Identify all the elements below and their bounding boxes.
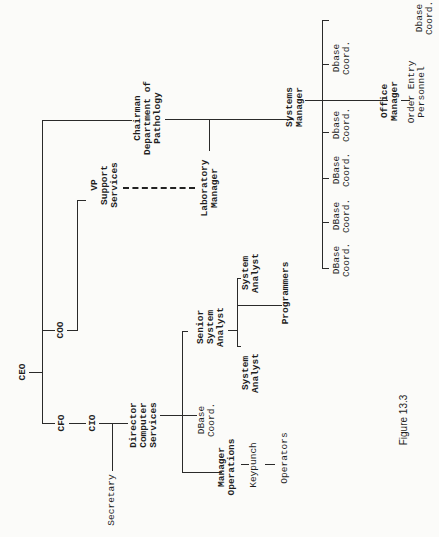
node-cfo: CFO [57, 408, 67, 438]
chairman-connector-line [42, 120, 132, 121]
director-children-trunk [182, 331, 183, 473]
node-ceo: CEO [18, 357, 28, 387]
node-chairman: Chairman Department of Pathology [133, 68, 163, 168]
node-secretary: Secretary [107, 465, 117, 535]
systems-manager-to-trunk-line [305, 100, 388, 101]
chairman-to-systems-line [165, 119, 293, 120]
node-dbase-coord-sm-6: Dbase Coord. [415, 0, 435, 38]
node-dbase-coord-sm-1: DBase Coord. [332, 240, 352, 280]
sm-dc1-connector-line [322, 268, 329, 269]
node-dbase-coord-sm-5: Dbase Coord. [332, 38, 352, 78]
coo-vertical-line [77, 200, 78, 331]
sm-dc3-connector-line [322, 178, 329, 179]
node-order-entry-personnel: Order Entry Personnel [407, 57, 427, 127]
node-dbase-coord-sm-2: DBase Coord. [332, 196, 352, 236]
cfo-connector-line [42, 423, 55, 424]
node-manager-operations: Manager Operations [217, 432, 237, 502]
node-dbase-coord-sm-4: Dbase Coord. [332, 105, 352, 145]
sm-dc6-connector-line [322, 20, 329, 21]
director-to-dbase-line [160, 415, 197, 416]
sm-dc2-connector-line [322, 222, 329, 223]
ceo-trunk-line [42, 120, 43, 424]
node-dbase-coord-sm-3: DBase Coord. [332, 150, 352, 190]
figure-caption: Figure 13.3 [399, 385, 411, 455]
node-coo: COO [56, 315, 66, 345]
sm-dc5-connector-line [322, 64, 329, 65]
coo-connector-line [42, 330, 55, 331]
node-keypunch: Keypunch [249, 440, 259, 490]
node-systems-manager: Systems Manager [285, 82, 305, 132]
systems-manager-children-trunk [322, 20, 323, 268]
sa1-connector-line [237, 346, 241, 347]
node-operators: Operators [280, 428, 290, 488]
senior-sa-connector-line [182, 331, 188, 332]
vp-connector-line [77, 200, 86, 201]
sm-dc4-connector-line [322, 132, 329, 133]
dotted-line-vp-to-lab [123, 187, 195, 189]
lab-manager-line [209, 119, 210, 151]
keypunch-to-operators-line [265, 464, 275, 465]
cio-to-director-line [99, 423, 128, 424]
node-director-computer-services: Director Computer Services [129, 390, 159, 460]
senior-sa-team-trunk [237, 278, 238, 346]
node-laboratory-manager: Laboratory Manager [200, 153, 220, 223]
node-programmers: Programmers [281, 258, 291, 328]
node-system-analyst-1: System Analyst [241, 348, 261, 398]
programmers-connector-line [237, 305, 282, 306]
node-cio: CIO [88, 408, 98, 438]
coo-to-vp-line [67, 330, 77, 331]
node-senior-system-analyst: Senior System Analyst [196, 297, 226, 357]
node-dbase-coord: DBase Coord. [197, 395, 217, 445]
node-vp-support-services: VP Support Services [90, 150, 120, 220]
ceo-tick-line [29, 372, 42, 373]
node-system-analyst-2: System Analyst [241, 248, 261, 298]
node-office-manager: Office Manager [380, 81, 400, 121]
secretary-line [112, 423, 113, 471]
cfo-to-cio-line [69, 423, 86, 424]
